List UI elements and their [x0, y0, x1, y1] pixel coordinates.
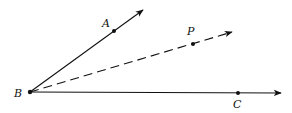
point-b: [28, 90, 32, 94]
label-c: C: [233, 98, 242, 111]
label-a: A: [101, 17, 110, 30]
label-p: P: [186, 25, 195, 38]
point-p: [191, 42, 195, 46]
point-a: [112, 29, 116, 33]
angle-diagram: B A P C: [0, 0, 292, 113]
ray-bp: [30, 32, 232, 92]
label-b: B: [13, 87, 22, 100]
ray-bc: [30, 92, 281, 93]
ray-ba: [30, 10, 143, 92]
point-c: [236, 91, 240, 95]
